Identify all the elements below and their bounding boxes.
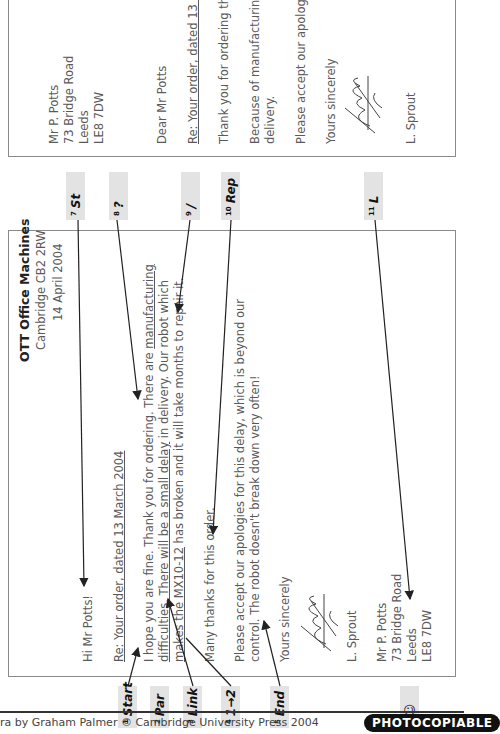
signature-icon bbox=[340, 68, 385, 138]
tag-number: 11 bbox=[368, 206, 376, 216]
letter2-para2-line2: delivery. bbox=[263, 96, 278, 144]
letter1-greeting: Hi Mr Potts! bbox=[81, 595, 96, 662]
letter1-closing: Yours sincerely bbox=[278, 576, 293, 662]
letter2-recipient-line: Mr P. Potts bbox=[47, 85, 62, 144]
letter2-para3: Please accept our apologie bbox=[294, 0, 309, 144]
text: has broken and it will take months to re… bbox=[172, 277, 186, 547]
tag-st[interactable]: 7St bbox=[66, 172, 85, 220]
letter1-recipient-line: 73 Bridge Road bbox=[390, 574, 405, 662]
footer-credit: ra by Graham Palmer © Cambridge Universi… bbox=[0, 716, 319, 729]
letter1-para1-line3: makes the MX10-12 has broken and it will… bbox=[172, 277, 187, 662]
letter2-greeting: Dear Mr Potts bbox=[155, 66, 170, 144]
tag-number: 7 bbox=[70, 211, 78, 216]
text: manufacturing bbox=[142, 264, 156, 349]
letter-date: 14 April 2004 bbox=[51, 244, 66, 322]
tag-label: Rep bbox=[224, 178, 238, 203]
tag-number: 10 bbox=[225, 206, 233, 216]
letter1-recipient-line: Mr P. Potts bbox=[375, 603, 390, 662]
letter1-recipient-line: LE8 7DW bbox=[420, 610, 435, 662]
letter2-recipient-line: 73 Bridge Road bbox=[62, 56, 77, 144]
letter1-subject: Re: Your order, dated 13 March 2004 bbox=[112, 451, 127, 662]
tag-label: Par bbox=[153, 694, 167, 716]
text: makes the MX10-12 bbox=[172, 547, 186, 662]
text: in delivery. Our robot which bbox=[157, 280, 171, 442]
letter2-subject: Re: Your order, dated 13 M bbox=[186, 0, 201, 144]
text: I hope you are fine. Thank you for order… bbox=[142, 349, 156, 662]
tag-rep[interactable]: 10Rep bbox=[221, 172, 240, 220]
letter2-recipient-line: LE8 7DW bbox=[92, 92, 107, 144]
tag-number: 8 bbox=[113, 211, 121, 216]
letter1-para3-line2: control. The robot doesn't break down ve… bbox=[248, 375, 263, 662]
letter1-para3-line1: Please accept our apologies for this del… bbox=[233, 299, 248, 662]
letter1-signer: L. Sprout bbox=[345, 610, 360, 662]
tag-number: 9 bbox=[185, 211, 193, 216]
tag-l[interactable]: 11L bbox=[364, 172, 383, 220]
letter1-para1-line2: difficulties. There will be a small dela… bbox=[157, 280, 172, 662]
letter2-para1: Thank you for ordering the bbox=[217, 0, 232, 144]
tag-label: L bbox=[367, 196, 381, 204]
tag-label: St bbox=[69, 194, 83, 208]
letter1-para1-line1: I hope you are fine. Thank you for order… bbox=[142, 264, 157, 662]
letter2-signer: L. Sprout bbox=[404, 92, 419, 144]
signature-icon bbox=[296, 586, 341, 656]
letter2-para2-line1: Because of manufacturing bbox=[248, 0, 263, 144]
company-address: Cambridge CB2 2RW bbox=[34, 230, 49, 350]
letter1-recipient-line: Leeds bbox=[405, 628, 420, 662]
letter1-para2: Many thanks for this order. bbox=[203, 507, 218, 662]
footer-credit-text: ra by Graham Palmer © Cambridge Universi… bbox=[0, 716, 319, 729]
tag-label: ? bbox=[112, 201, 126, 208]
footer-rule bbox=[0, 711, 464, 713]
letter2-recipient-line: Leeds bbox=[77, 110, 92, 144]
company-name: OTT Office Machines bbox=[17, 219, 32, 362]
letter2-closing: Yours sincerely bbox=[324, 58, 339, 144]
photocopiable-badge: PHOTOCOPIABLE bbox=[364, 714, 500, 732]
tag-question[interactable]: 8? bbox=[109, 172, 128, 220]
text: difficulties. There will be a small dela… bbox=[157, 442, 171, 662]
tag-slash[interactable]: 9/ bbox=[181, 172, 200, 220]
tag-label: / bbox=[184, 204, 198, 208]
